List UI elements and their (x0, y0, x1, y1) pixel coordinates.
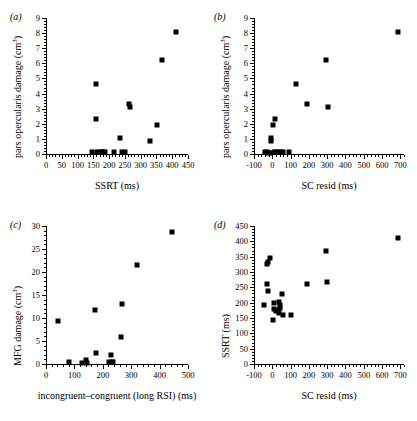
panel-label-c: (c) (10, 220, 21, 230)
x-minor-tick (49, 155, 50, 157)
y-minor-tick (44, 54, 46, 55)
data-point (122, 150, 127, 155)
x-minor-tick (68, 155, 69, 157)
y-minor-tick (252, 330, 254, 331)
y-minor-tick (252, 130, 254, 131)
x-minor-tick (283, 365, 284, 367)
x-tick-label: -100 (246, 371, 262, 380)
y-minor-tick (252, 127, 254, 128)
y-axis-title-text: SSRT (ms) (220, 314, 231, 358)
x-minor-tick (177, 365, 178, 367)
y-minor-tick (44, 332, 46, 333)
y-minor-tick (252, 281, 254, 282)
y-minor-tick (252, 21, 254, 22)
x-minor-tick (150, 155, 151, 157)
y-tick-label: 450 (235, 222, 248, 231)
y-minor-tick (252, 346, 254, 347)
data-point (288, 312, 293, 317)
panel-label-a: (a) (10, 12, 22, 22)
y-minor-tick (44, 69, 46, 70)
y-axis-line-b (254, 18, 255, 154)
x-minor-tick (302, 365, 303, 367)
y-minor-tick (252, 355, 254, 356)
x-minor-tick (96, 155, 97, 157)
panel-a: (a)0501001502002503003504004500123456789… (0, 0, 208, 210)
y-minor-tick (252, 300, 254, 301)
x-major-tick (272, 155, 273, 159)
y-minor-tick (44, 75, 46, 76)
x-major-tick (309, 365, 310, 369)
x-minor-tick (280, 365, 281, 367)
y-minor-tick (252, 36, 254, 37)
x-minor-tick (108, 365, 109, 367)
x-minor-tick (349, 365, 350, 367)
x-minor-tick (320, 155, 321, 157)
x-minor-tick (258, 365, 259, 367)
x-major-tick (345, 155, 346, 159)
x-minor-tick (131, 155, 132, 157)
y-minor-tick (252, 97, 254, 98)
x-major-tick (156, 155, 157, 159)
x-minor-tick (153, 155, 154, 157)
y-minor-tick (252, 142, 254, 143)
x-axis-title-c: incongruent–congruent (long RSI) (ms) (38, 390, 197, 401)
x-major-tick (93, 155, 94, 159)
x-minor-tick (349, 155, 350, 157)
x-minor-tick (404, 155, 405, 157)
y-minor-tick (252, 54, 254, 55)
y-minor-tick (252, 133, 254, 134)
x-tick-label: 250 (119, 161, 132, 170)
y-minor-tick (252, 284, 254, 285)
y-tick-label: 5 (36, 74, 40, 83)
x-minor-tick (393, 155, 394, 157)
y-minor-tick (252, 339, 254, 340)
y-tick-label: 100 (235, 329, 248, 338)
x-minor-tick (367, 155, 368, 157)
x-tick-label: 500 (182, 371, 195, 380)
x-minor-tick (74, 155, 75, 157)
y-minor-tick (44, 130, 46, 131)
x-minor-tick (338, 155, 339, 157)
y-tick-label: 6 (244, 59, 248, 68)
y-minor-tick (44, 136, 46, 137)
y-major-tick (250, 18, 254, 19)
x-tick-label: 600 (376, 161, 389, 170)
data-point (324, 280, 329, 285)
y-tick-label: 350 (235, 252, 248, 261)
x-minor-tick (371, 155, 372, 157)
x-minor-tick (81, 155, 82, 157)
y-major-tick (250, 63, 254, 64)
y-tick-label: 0 (36, 150, 40, 159)
data-point (111, 360, 116, 365)
data-point (127, 105, 132, 110)
y-minor-tick (252, 336, 254, 337)
y-minor-tick (44, 350, 46, 351)
x-major-tick (46, 155, 47, 159)
x-minor-tick (160, 155, 161, 157)
y-minor-tick (252, 75, 254, 76)
x-major-tick (131, 365, 132, 369)
x-minor-tick (57, 365, 58, 367)
x-minor-tick (320, 365, 321, 367)
y-tick-label: 0 (244, 360, 248, 369)
y-minor-tick (252, 269, 254, 270)
x-minor-tick (175, 155, 176, 157)
y-minor-tick (44, 235, 46, 236)
x-tick-label: 300 (321, 161, 334, 170)
x-minor-tick (182, 155, 183, 157)
x-tick-label: 200 (303, 161, 316, 170)
data-point (273, 117, 278, 122)
x-minor-tick (100, 155, 101, 157)
y-major-tick (42, 249, 46, 250)
x-tick-label: 0 (44, 161, 48, 170)
x-minor-tick (71, 155, 72, 157)
y-minor-tick (252, 343, 254, 344)
x-minor-tick (119, 155, 120, 157)
y-minor-tick (44, 290, 46, 291)
y-tick-label: 1 (36, 134, 40, 143)
y-minor-tick (252, 312, 254, 313)
y-minor-tick (252, 290, 254, 291)
y-major-tick (250, 48, 254, 49)
x-minor-tick (386, 365, 387, 367)
y-tick-label: 2 (244, 119, 248, 128)
